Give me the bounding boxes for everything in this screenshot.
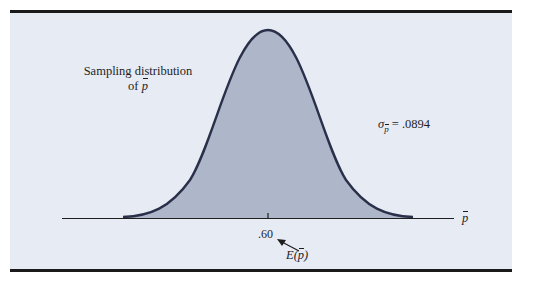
standard-error-label: σp = .0894: [378, 118, 430, 131]
curve-fill-area: [123, 30, 413, 218]
expected-var: p: [298, 249, 304, 262]
mean-tick-label: .60: [258, 228, 273, 240]
x-axis-variable: p: [462, 212, 468, 225]
expected-suffix: ): [304, 248, 308, 262]
arrow-head-icon: [277, 239, 286, 246]
normal-curve-figure: [0, 0, 549, 285]
sigma-value: .0894: [402, 117, 430, 131]
expected-value-label: E(p): [286, 249, 308, 262]
distribution-label-line2: of p: [78, 79, 198, 94]
x-axis-label: p: [462, 212, 468, 225]
sigma-subscript: p: [384, 125, 389, 134]
distribution-label: Sampling distribution of p: [78, 64, 198, 94]
expected-prefix: E(: [286, 248, 298, 262]
distribution-label-line1: Sampling distribution: [78, 64, 198, 79]
of-text: of: [128, 79, 142, 93]
sigma-equals: =: [389, 117, 402, 131]
p-bar-symbol: p: [142, 79, 148, 94]
